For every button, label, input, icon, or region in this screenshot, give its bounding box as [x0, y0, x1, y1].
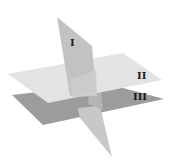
plane-label-i: I [70, 37, 75, 48]
planes-diagram: I II III [0, 0, 170, 166]
plane-i-lower [78, 106, 112, 157]
plane-label-ii: II [137, 70, 147, 81]
plane-label-iii: III [133, 91, 147, 102]
